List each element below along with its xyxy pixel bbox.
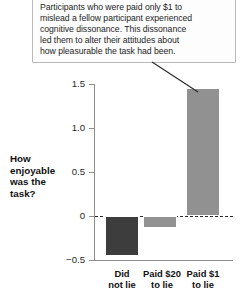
y-tick-mark-3 bbox=[89, 172, 94, 173]
bar-paid-20-to-lie bbox=[143, 216, 177, 228]
y-tick-mark-1 bbox=[89, 84, 94, 85]
bar-paid-1-to-lie bbox=[186, 88, 220, 216]
y-axis-title: How enjoyable was the task? bbox=[10, 153, 74, 199]
annotation-callout-text: Participants who were paid only $1 to mi… bbox=[40, 2, 229, 57]
bar-did-not-lie bbox=[105, 216, 139, 256]
y-tick-mark-2 bbox=[89, 128, 94, 129]
y-tick-label-4: 0 bbox=[80, 211, 85, 221]
y-tick-mark-4 bbox=[89, 216, 94, 217]
x-category-label-paid-20-to-lie: Paid $20 to lie bbox=[140, 268, 184, 291]
annotation-callout-box: Participants who were paid only $1 to mi… bbox=[32, 0, 236, 63]
y-axis-line bbox=[94, 84, 95, 261]
x-category-label-paid-1-to-lie: Paid $1 to lie bbox=[181, 268, 225, 291]
x-axis-line bbox=[94, 260, 233, 261]
y-tick-label-2: 1.0 bbox=[72, 123, 85, 133]
y-tick-mark-5 bbox=[89, 260, 94, 261]
y-tick-label-5: −0.5 bbox=[66, 255, 85, 265]
y-tick-label-1: 1.5 bbox=[72, 79, 85, 89]
x-category-label-did-not-lie: Did not lie bbox=[100, 268, 144, 291]
